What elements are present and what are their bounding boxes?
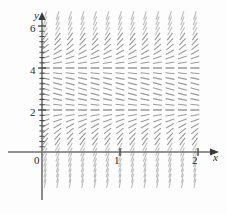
slope-segment: [53, 104, 62, 105]
slope-segment: [91, 73, 100, 74]
slope-segment: [128, 115, 137, 116]
slope-segment: [190, 73, 199, 74]
slope-segment: [166, 78, 175, 80]
axes-group: [8, 12, 219, 200]
slope-segment: [66, 83, 75, 85]
slope-segment: [91, 88, 100, 90]
slope-segment: [141, 93, 150, 95]
slope-segment: [128, 88, 137, 90]
slope-segment: [178, 50, 186, 54]
slope-segment: [141, 115, 150, 116]
slope-segment: [153, 56, 162, 59]
slope-segment: [128, 99, 137, 101]
slope-segment: [79, 124, 87, 128]
slope-segment: [140, 104, 149, 105]
slope-segment: [153, 78, 162, 80]
slope-segment: [66, 62, 75, 63]
slope-segment: [53, 56, 62, 59]
slope-segment: [54, 124, 62, 128]
slope-segment: [66, 124, 74, 128]
slope-segment: [53, 62, 62, 63]
slope-segment: [116, 115, 125, 116]
slope-segment: [53, 93, 62, 95]
slope-field-segments: [41, 11, 200, 188]
slope-segment: [166, 119, 175, 122]
slope-segment: [178, 83, 187, 85]
slope-segment: [116, 93, 125, 95]
slope-segment: [66, 88, 75, 90]
y-tick-label-2: 2: [30, 107, 36, 118]
slope-segment: [141, 56, 150, 59]
slope-segment: [141, 50, 149, 54]
slope-segment: [104, 50, 112, 54]
y-tick-label-6: 6: [30, 23, 36, 34]
slope-segment: [141, 99, 150, 101]
slope-segment: [53, 119, 62, 122]
slope-segment: [129, 124, 137, 128]
slope-segment: [153, 93, 162, 95]
slope-segment: [116, 73, 125, 74]
slope-segment: [141, 83, 150, 85]
slope-segment: [166, 88, 175, 90]
x-tick-label-1: 1: [114, 155, 120, 166]
slope-segment: [166, 83, 175, 85]
slope-segment: [141, 119, 150, 122]
slope-segment: [78, 93, 87, 95]
slope-segment: [116, 104, 125, 105]
slope-segment: [165, 104, 174, 105]
slope-segment: [128, 56, 137, 59]
slope-segment: [103, 104, 112, 105]
origin-tick-label: 0: [34, 155, 40, 166]
slope-segment: [116, 50, 124, 54]
slope-segment: [54, 50, 62, 54]
slope-segment: [116, 62, 125, 63]
slope-segment: [191, 83, 200, 85]
slope-segment: [78, 78, 87, 80]
slope-segment: [103, 83, 112, 85]
slope-segment: [166, 56, 175, 59]
slope-segment: [190, 78, 199, 80]
slope-segment: [153, 104, 162, 105]
slope-segment: [178, 62, 187, 63]
slope-segment: [103, 119, 112, 122]
slope-segment: [166, 50, 174, 54]
slope-segment: [153, 115, 162, 116]
slope-segment: [53, 73, 62, 74]
slope-segment: [66, 56, 75, 59]
slope-segment: [116, 119, 125, 122]
slope-segment: [178, 78, 187, 80]
x-axis-label: x: [213, 152, 218, 163]
slope-segment: [78, 115, 87, 116]
slope-segment: [165, 115, 174, 116]
slope-segment: [178, 73, 187, 74]
slope-segment: [116, 83, 125, 85]
slope-segment: [103, 88, 112, 90]
slope-segment: [66, 115, 75, 116]
slope-segment: [165, 62, 174, 63]
y-axis-label: y: [34, 10, 39, 21]
slope-segment: [153, 73, 162, 74]
slope-segment: [66, 73, 75, 74]
slope-segment: [66, 104, 75, 105]
slope-segment: [190, 99, 199, 101]
slope-segment: [166, 93, 175, 95]
slope-segment: [191, 93, 200, 95]
slope-segment: [78, 104, 87, 105]
slope-segment: [78, 56, 87, 59]
slope-segment: [153, 88, 162, 90]
slope-segment: [154, 50, 162, 54]
slope-segment: [53, 115, 62, 116]
slope-segment: [103, 99, 112, 101]
slope-segment: [128, 119, 137, 122]
slope-segment: [128, 104, 137, 105]
y-tick-label-4: 4: [30, 65, 36, 76]
slope-segment: [190, 62, 199, 63]
slope-segment: [153, 99, 162, 101]
slope-segment: [53, 83, 62, 85]
slope-segment: [91, 56, 100, 59]
slope-segment: [66, 93, 75, 95]
slope-segment: [178, 115, 187, 116]
slope-segment: [78, 119, 87, 122]
slope-segment: [116, 124, 124, 128]
slope-segment: [166, 99, 175, 101]
